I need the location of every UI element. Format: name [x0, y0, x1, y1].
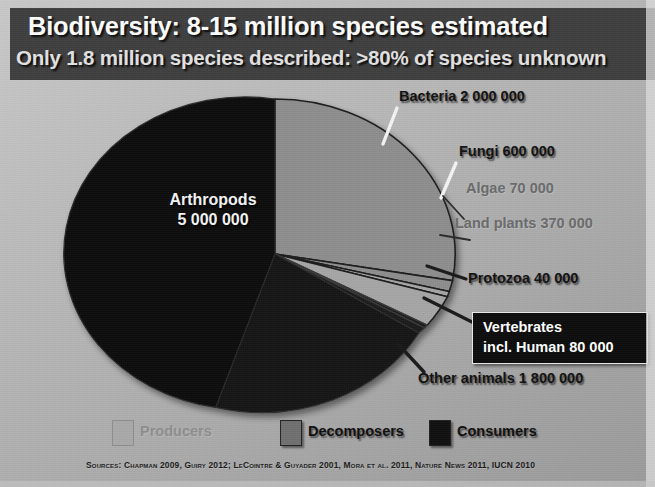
right-edge-strip	[646, 0, 655, 487]
legend-label-consumers: Consumers	[457, 423, 537, 439]
slide-canvas: Biodiversity: 8-15 million species estim…	[0, 0, 655, 487]
label-arthropods-value: 5 000 000	[118, 210, 308, 230]
title-band: Biodiversity: 8-15 million species estim…	[10, 8, 655, 80]
legend-label-producers: Producers	[140, 423, 212, 439]
page-title: Biodiversity: 8-15 million species estim…	[28, 12, 548, 41]
sources-note: Sources: Chapman 2009, Guiry 2012; LeCoi…	[86, 460, 535, 470]
label-fungi: Fungi 600 000	[459, 143, 555, 159]
label-vertebrates-box: Vertebrates incl. Human 80 000	[472, 312, 648, 364]
leader-other-animals	[398, 344, 424, 372]
legend-label-decomposers: Decomposers	[308, 423, 404, 439]
label-protozoa: Protozoa 40 000	[468, 270, 578, 286]
label-bacteria: Bacteria 2 000 000	[399, 88, 525, 104]
bottom-edge-strip	[0, 481, 655, 487]
label-vertebrates-line1: Vertebrates	[483, 319, 562, 335]
label-land-plants: Land plants 370 000	[455, 215, 593, 231]
page-subtitle: Only 1.8 million species described: >80%…	[16, 46, 606, 70]
label-arthropods: Arthropods 5 000 000	[118, 190, 308, 230]
chart-legend: Producers Decomposers Consumers	[112, 418, 542, 448]
pie-slices	[64, 97, 455, 413]
label-arthropods-name: Arthropods	[118, 190, 308, 210]
label-vertebrates-line2: incl. Human 80 000	[483, 339, 614, 355]
legend-swatch-producers	[112, 420, 134, 446]
leader-fungi	[441, 163, 456, 198]
legend-swatch-consumers	[429, 420, 451, 446]
legend-swatch-decomposers	[280, 420, 302, 446]
label-other-animals: Other animals 1 800 000	[418, 370, 583, 386]
label-algae: Algae 70 000	[466, 180, 554, 196]
